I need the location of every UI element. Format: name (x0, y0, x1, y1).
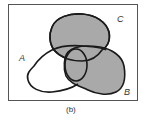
set-label-c: C (117, 15, 124, 24)
figure-caption: (b) (66, 106, 76, 114)
set-label-b: B (124, 88, 130, 97)
set-label-a: A (19, 54, 25, 63)
